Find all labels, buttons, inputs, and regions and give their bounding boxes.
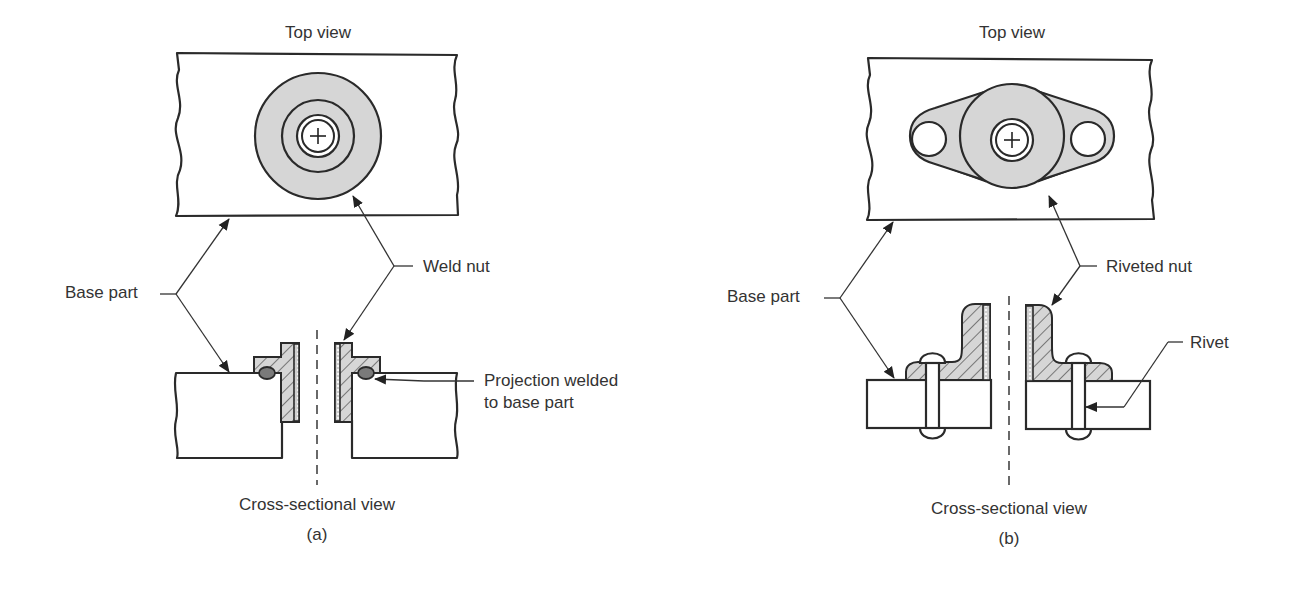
section-label-b: Cross-sectional view <box>931 499 1088 518</box>
riveted-nut-section-left <box>906 304 990 380</box>
weld-nut-top-view <box>255 73 381 199</box>
projection-welded-label-line2: to base part <box>484 393 574 412</box>
panel-b: Top view Base part Riveted nut <box>727 23 1229 548</box>
fastener-diagram: Top view Base part Weld nut <box>0 0 1300 590</box>
base-part-label-a: Base part <box>65 283 138 302</box>
caption-b: (b) <box>999 529 1020 548</box>
rivet-label: Rivet <box>1190 333 1229 352</box>
riveted-nut-top-view <box>910 84 1114 188</box>
base-part-section-left-a <box>175 373 282 458</box>
projection-weld-right <box>358 367 374 379</box>
panel-a: Top view Base part Weld nut <box>65 23 618 544</box>
caption-a: (a) <box>307 525 328 544</box>
base-part-section-right-b <box>1026 381 1150 429</box>
top-view-label-b: Top view <box>979 23 1046 42</box>
weld-nut-section-right <box>335 343 380 422</box>
riveted-nut-section-right <box>1026 305 1112 381</box>
projection-welded-label: Projection welded <box>484 371 618 390</box>
projection-weld-left <box>259 367 275 379</box>
top-view-label-a: Top view <box>285 23 352 42</box>
riveted-nut-label: Riveted nut <box>1106 257 1192 276</box>
base-part-label-b: Base part <box>727 287 800 306</box>
weld-nut-label: Weld nut <box>423 257 490 276</box>
weld-nut-section-left <box>254 343 299 422</box>
section-label-a: Cross-sectional view <box>239 495 396 514</box>
base-part-section-right-a <box>352 373 458 458</box>
